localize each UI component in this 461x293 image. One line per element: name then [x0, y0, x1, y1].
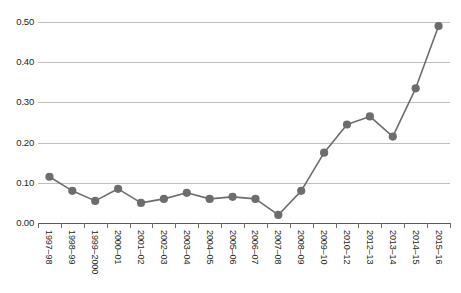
x-axis-tick — [450, 223, 451, 228]
data-point — [160, 195, 168, 203]
gridline — [38, 62, 450, 63]
data-point — [206, 195, 214, 203]
x-axis-tick-label: 2009–10 — [319, 230, 328, 264]
x-axis-tick-label: 2004–05 — [205, 230, 214, 264]
y-axis-tick-label: 0.20 — [2, 138, 34, 148]
x-axis-tick — [198, 223, 199, 228]
y-axis: 0.000.100.200.300.400.50 — [0, 0, 34, 293]
data-point — [366, 112, 374, 120]
y-axis-tick-label: 0.50 — [2, 17, 34, 27]
x-axis-tick — [175, 223, 176, 228]
data-point — [183, 189, 191, 197]
data-point — [434, 22, 442, 30]
x-axis-tick — [152, 223, 153, 228]
x-axis-tick-label: 2002–03 — [159, 230, 168, 264]
x-axis-tick-label: 2015–16 — [434, 230, 443, 264]
x-axis-tick — [107, 223, 108, 228]
data-point — [137, 199, 145, 207]
y-axis-tick-label: 0.40 — [2, 57, 34, 67]
data-point — [228, 193, 236, 201]
x-axis-tick-label: 2010–12 — [342, 230, 351, 264]
x-axis-tick — [84, 223, 85, 228]
data-point — [412, 84, 420, 92]
data-point — [91, 197, 99, 205]
x-axis-tick — [290, 223, 291, 228]
gridline — [38, 183, 450, 184]
gridline — [38, 22, 450, 23]
x-axis-tick-label: 1998–99 — [67, 230, 76, 264]
gridline — [38, 102, 450, 103]
x-axis-tick-label: 2014–15 — [411, 230, 420, 264]
x-axis-tick — [381, 223, 382, 228]
x-axis-tick — [38, 223, 39, 228]
x-axis-tick-label: 1999–2000 — [90, 230, 99, 274]
data-point — [114, 185, 122, 193]
data-point — [389, 132, 397, 140]
x-axis-tick-label: 2012–13 — [365, 230, 374, 264]
x-axis-tick-label: 1997–98 — [44, 230, 53, 264]
x-axis-tick-label: 2003–04 — [182, 230, 191, 264]
data-point — [320, 149, 328, 157]
x-axis-tick — [404, 223, 405, 228]
y-axis-tick-label: 0.00 — [2, 218, 34, 228]
line-chart: 0.000.100.200.300.400.50 1997–981998–991… — [0, 0, 461, 293]
data-point — [68, 187, 76, 195]
data-point — [343, 120, 351, 128]
x-axis-tick — [244, 223, 245, 228]
data-point — [297, 187, 305, 195]
x-axis-tick — [313, 223, 314, 228]
x-axis-tick-label: 2000–01 — [113, 230, 122, 264]
data-point — [45, 173, 53, 181]
x-axis-tick — [358, 223, 359, 228]
x-axis-tick — [336, 223, 337, 228]
x-axis-tick-label: 2005–06 — [228, 230, 237, 264]
x-axis-tick — [427, 223, 428, 228]
series-line — [49, 26, 438, 215]
x-axis-tick-label: 2013–14 — [388, 230, 397, 264]
x-axis-tick — [267, 223, 268, 228]
data-point — [274, 211, 282, 219]
series-markers — [45, 22, 442, 219]
gridline — [38, 143, 450, 144]
x-axis-tick-label: 2007–08 — [273, 230, 282, 264]
x-axis-tick — [61, 223, 62, 228]
x-axis-tick — [221, 223, 222, 228]
x-axis-tick-label: 2008–09 — [296, 230, 305, 264]
x-axis-tick — [130, 223, 131, 228]
data-point — [251, 195, 259, 203]
y-axis-tick-label: 0.30 — [2, 97, 34, 107]
y-axis-tick-label: 0.10 — [2, 178, 34, 188]
x-axis-tick-label: 2006–07 — [250, 230, 259, 264]
x-axis-tick-label: 2001–02 — [136, 230, 145, 264]
